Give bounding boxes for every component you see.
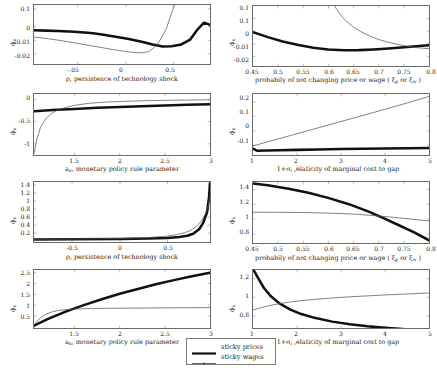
panel-r3c2-xtick: 0.75 bbox=[394, 245, 414, 252]
panel-r1c2-xtick: 0.55 bbox=[293, 68, 313, 75]
figure-canvas: ϕπ 0.1 0 -0.01 -0.02 -.05 0 0.5 bbox=[0, 0, 437, 372]
panel-r3c2-xtick: 0.7 bbox=[370, 245, 388, 252]
panel-r2c1-xtick: 3 bbox=[205, 157, 217, 164]
panel-r1c2-ytick: 0.1 bbox=[227, 4, 249, 11]
panel-r3c2-xtick: 0.8 bbox=[422, 245, 437, 252]
panel-r3c1-xlabel: ρ, persistence of technology shock bbox=[33, 253, 211, 261]
panel-r3c1-plot bbox=[33, 181, 211, 243]
panel-r4c1-ytick: 0.5 bbox=[8, 313, 30, 320]
panel-r1c2-ytick: -0.01 bbox=[223, 43, 249, 50]
panel-r3c2-xtick: 0.6 bbox=[320, 245, 338, 252]
panel-r2c1-xtick: 2.5 bbox=[156, 157, 174, 164]
panel-r3c2-xtick: 0.55 bbox=[293, 245, 313, 252]
panel-r4c2-ytick: 1 bbox=[227, 292, 249, 299]
panel-r4c1-plot bbox=[33, 269, 211, 329]
panel-r1c2-xtick: 0.65 bbox=[343, 68, 363, 75]
panel-r3c2-ytick: 0.8 bbox=[227, 228, 249, 235]
panel-r3c2-ytick: 1.2 bbox=[227, 198, 249, 205]
panel-r1c2-xtick: 0.45 bbox=[242, 68, 262, 75]
legend-label-sticky-prices: sticky prices bbox=[221, 343, 263, 352]
legend-swatch-thin-line bbox=[191, 353, 217, 362]
panel-r2c2-ytick: -0.1 bbox=[224, 137, 249, 144]
panel-r3c2: ϕx 1.4 1.2 1 0.8 bbox=[219, 178, 437, 266]
panel-r3c1-ytick: 0.2 bbox=[8, 229, 30, 236]
panel-r2c2-xlabel: 1+σi ,elaticity of marginal cost to gap bbox=[243, 165, 433, 173]
panel-r2c2-xtick: 3 bbox=[335, 157, 347, 164]
panel-r3c1-xtick: 0.5 bbox=[159, 244, 177, 251]
panel-r2c2-plot bbox=[252, 93, 430, 156]
panel-r1c1-xtick: 0.5 bbox=[161, 66, 179, 73]
panel-r3c2-xtick: 0.5 bbox=[269, 245, 287, 252]
panel-r3c2-xlabel: probabily of not changing price or wage … bbox=[233, 254, 437, 262]
panel-r3c1: ϕx 1.4 1.2 1 0.8 0.6 0.4 0.2 bbox=[0, 178, 218, 266]
panel-r4c2-plot bbox=[252, 269, 430, 329]
panel-r1c1-ytick: 0 bbox=[8, 24, 30, 31]
panel-r3c2-xtick: 0.45 bbox=[242, 245, 262, 252]
panel-r1c1-plot bbox=[33, 4, 211, 65]
panel-r3c1-ytick: 0.6 bbox=[8, 213, 30, 220]
panel-r2c1-xlabel: aπ, monetary policy rule parameter bbox=[33, 165, 211, 173]
panel-r3c1-ytick: 1.2 bbox=[8, 189, 30, 196]
panel-r1c1-ytick: -0.01 bbox=[4, 38, 30, 45]
panel-r1c2-xtick: 0.7 bbox=[370, 68, 388, 75]
panel-r2c2-ytick: 0 bbox=[227, 122, 249, 129]
panel-r1c1-ytick: -0.02 bbox=[4, 52, 30, 59]
panel-r2c1-xtick: 2 bbox=[114, 157, 126, 164]
panel-r1c2: ϕπ 0.1 0.1 0 -0.01 -0.02 bbox=[219, 0, 437, 88]
panel-r2c1-plot bbox=[33, 93, 211, 156]
figure-legend: sticky prices sticky wages bbox=[186, 338, 276, 365]
panel-r1c1-xtick: 0 bbox=[115, 66, 127, 73]
panel-r3c1-ytick: 0.8 bbox=[8, 205, 30, 212]
panel-r4c1-ytick: 2.5 bbox=[8, 269, 30, 276]
panel-r4c2-xtick: 5 bbox=[424, 330, 436, 337]
panel-r4c2-xtick: 2 bbox=[290, 330, 302, 337]
panel-r2c2: ϕπ 0.2 0.1 0 -0.1 1 2 3 4 5 bbox=[219, 89, 437, 177]
panel-r2c1-xtick: 1.5 bbox=[65, 157, 83, 164]
panel-r1c1-xtick: -.05 bbox=[62, 66, 84, 73]
panel-r1c2-xtick: 0.75 bbox=[394, 68, 414, 75]
panel-r4c2-xtick: 3 bbox=[335, 330, 347, 337]
panel-r2c2-xtick: 5 bbox=[424, 157, 436, 164]
panel-r3c1-ytick: 1.4 bbox=[8, 181, 30, 188]
panel-r2c2-xtick: 1 bbox=[246, 157, 258, 164]
panel-r4c1-xtick: 1.5 bbox=[65, 330, 83, 337]
panel-r2c2-xtick: 2 bbox=[290, 157, 302, 164]
panel-r4c2-ytick: 0.8 bbox=[227, 311, 249, 318]
panel-r3c1-ytick: 0.4 bbox=[8, 221, 30, 228]
panel-r2c2-ytick: 0.1 bbox=[227, 108, 249, 115]
panel-r2c1-ytick: -1 bbox=[8, 140, 30, 147]
panel-r2c1-ytick: -0.5 bbox=[6, 117, 30, 124]
panel-r4c1-xlabel: aπ, monetary policy rule parameter bbox=[33, 338, 211, 346]
panel-r3c2-ytick: 1 bbox=[227, 213, 249, 220]
panel-r1c2-xtick: 0.5 bbox=[269, 68, 287, 75]
legend-label-sticky-wages: sticky wages bbox=[221, 353, 264, 362]
panel-r3c1-xtick: -0.5 bbox=[62, 244, 82, 251]
panel-r2c1-ylabel: ϕπ bbox=[9, 128, 17, 135]
panel-r2c1-ytick: 0 bbox=[8, 94, 30, 101]
panel-r2c1: ϕπ 0 -0.5 -1 1.5 2 2.5 3 aπ, monetary po… bbox=[0, 89, 218, 177]
legend-swatch-thick-line bbox=[191, 343, 217, 352]
panel-r3c1-xtick: 0 bbox=[114, 244, 126, 251]
panel-r4c1-xtick: 2 bbox=[114, 330, 126, 337]
panel-r4c1-xtick: 3 bbox=[205, 330, 217, 337]
panel-r3c1-ytick: 1 bbox=[8, 197, 30, 204]
panel-r1c2-plot bbox=[252, 5, 430, 67]
panel-r4c1-xtick: 2.5 bbox=[156, 330, 174, 337]
panel-r4c2-ytick: 1.2 bbox=[227, 273, 249, 280]
panel-r3c2-xtick: 0.65 bbox=[343, 245, 363, 252]
panel-r1c2-ytick: 0.1 bbox=[227, 17, 249, 24]
panel-r1c1-ytick: 0.1 bbox=[8, 5, 30, 12]
legend-entry-sticky-prices: sticky prices bbox=[191, 342, 270, 352]
panel-r2c2-ytick: 0.2 bbox=[227, 94, 249, 101]
panel-r2c2-xtick: 4 bbox=[379, 157, 391, 164]
panel-r4c1-ytick: 1 bbox=[8, 302, 30, 309]
panel-r3c2-ytick: 1.4 bbox=[227, 183, 249, 190]
panel-r1c2-ytick: -0.02 bbox=[223, 56, 249, 63]
panel-r1c2-xtick: 0.8 bbox=[422, 68, 437, 75]
panel-r4c1-ytick: 2 bbox=[8, 280, 30, 287]
panel-r3c2-plot bbox=[252, 181, 430, 244]
panel-r4c2-xtick: 4 bbox=[379, 330, 391, 337]
panel-r1c1-xlabel: ρ, persistence of technology shock bbox=[33, 75, 211, 83]
panel-r1c2-ytick: 0 bbox=[227, 30, 249, 37]
panel-r4c1-ytick: 1.5 bbox=[8, 291, 30, 298]
